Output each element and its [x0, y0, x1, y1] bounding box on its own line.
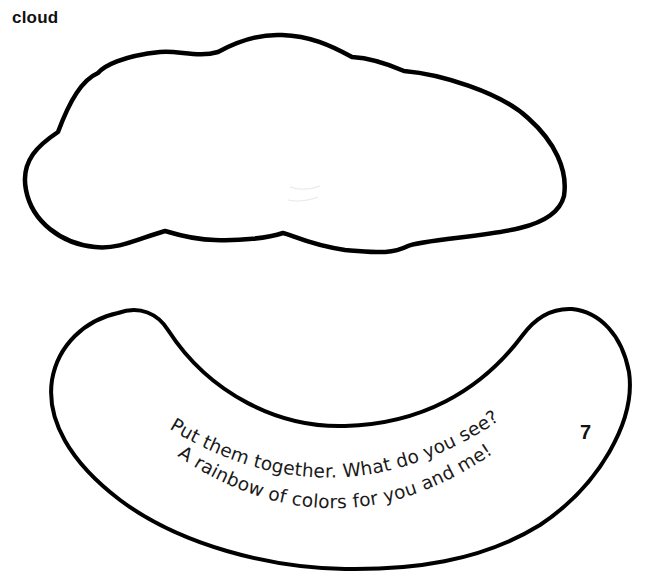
page-number: 7 [580, 421, 591, 444]
cloud-shape [25, 35, 565, 252]
cutout-artwork: Put them together. What do you see? A ra… [0, 0, 652, 580]
rainbow-arc-shape [51, 309, 630, 569]
